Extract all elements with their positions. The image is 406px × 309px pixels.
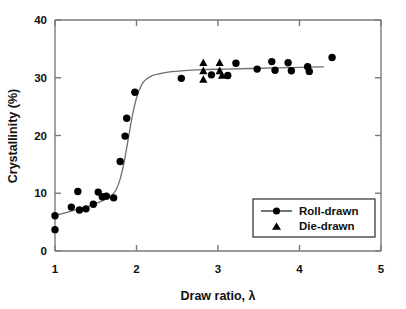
y-axis-ticklabels: 010203040: [34, 14, 47, 257]
data-point-roll-drawn: [288, 67, 295, 74]
x-axis-ticklabels: 12345: [52, 263, 385, 275]
data-point-roll-drawn: [82, 205, 89, 212]
data-point-roll-drawn: [328, 54, 335, 61]
data-point-die-drawn: [199, 58, 207, 66]
x-ticklabel: 2: [133, 263, 139, 275]
chart-legend: Roll-drawn Die-drawn: [253, 199, 375, 237]
data-point-roll-drawn: [68, 203, 75, 210]
x-ticklabel: 3: [215, 263, 221, 275]
data-point-roll-drawn: [74, 188, 81, 195]
x-ticklabel: 5: [378, 263, 385, 275]
data-point-roll-drawn: [178, 75, 185, 82]
y-ticklabel: 20: [34, 130, 47, 142]
data-point-roll-drawn: [208, 71, 215, 78]
x-axis-label: Draw ratio, λ: [180, 289, 255, 303]
data-point-roll-drawn: [51, 226, 58, 233]
data-point-roll-drawn: [271, 67, 278, 74]
y-ticklabel: 0: [41, 245, 47, 257]
legend-marker-circle-icon: [273, 207, 280, 214]
x-ticklabel: 4: [296, 263, 303, 275]
data-point-roll-drawn: [284, 59, 291, 66]
data-point-roll-drawn: [121, 132, 128, 139]
y-ticklabel: 10: [34, 187, 47, 199]
data-point-roll-drawn: [232, 60, 239, 67]
data-point-roll-drawn: [131, 88, 138, 95]
data-point-roll-drawn: [268, 58, 275, 65]
data-point-roll-drawn: [117, 158, 124, 165]
crystallinity-vs-draw-ratio-chart: 010203040 12345 Draw ratio, λ Crystallin…: [0, 0, 406, 309]
data-point-die-drawn: [199, 75, 207, 83]
x-ticklabel: 1: [52, 263, 59, 275]
data-point-roll-drawn: [253, 65, 260, 72]
y-axis-label: Crystallinity (%): [6, 89, 20, 183]
data-point-roll-drawn: [76, 206, 83, 213]
series-die-drawn-markers: [199, 58, 226, 82]
data-point-roll-drawn: [103, 192, 110, 199]
legend-label-die-drawn: Die-drawn: [299, 220, 355, 232]
data-point-roll-drawn: [110, 194, 117, 201]
data-point-die-drawn: [216, 58, 224, 66]
data-point-roll-drawn: [90, 201, 97, 208]
data-point-roll-drawn: [51, 212, 58, 219]
data-point-roll-drawn: [306, 68, 313, 75]
y-ticklabel: 30: [34, 72, 47, 84]
y-ticklabel: 40: [34, 14, 47, 26]
data-point-roll-drawn: [123, 114, 130, 121]
legend-label-roll-drawn: Roll-drawn: [299, 205, 358, 217]
